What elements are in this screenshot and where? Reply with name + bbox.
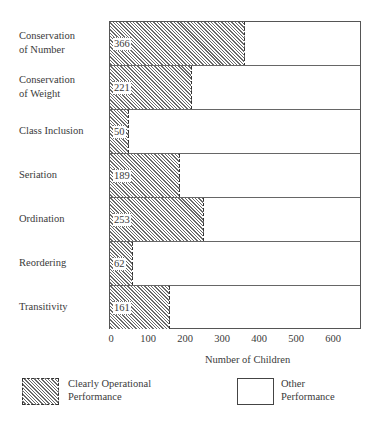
category-label-line: Class Inclusion: [19, 124, 107, 138]
category-label-line: Reordering: [19, 256, 107, 270]
legend-label-operational: Clearly Operational Performance: [68, 377, 151, 403]
legend-label-line: Performance: [281, 390, 335, 403]
category-label: Conservationof Number: [19, 29, 107, 57]
category-label-line: of Number: [19, 43, 107, 57]
category-label-line: Conservation: [19, 29, 107, 43]
bar-operational: 50: [110, 110, 129, 153]
x-tick-label: 400: [251, 333, 267, 344]
legend-swatch-other: [237, 378, 274, 405]
category-label-line: Ordination: [19, 212, 107, 226]
bar-row: 221: [110, 65, 360, 109]
category-label: Conservationof Weight: [19, 73, 107, 101]
category-label-line: Seriation: [19, 168, 107, 182]
category-label-line: Transitivity: [19, 300, 107, 314]
x-tick-label: 500: [288, 333, 304, 344]
legend-label-line: Performance: [68, 390, 151, 403]
category-label: Class Inclusion: [19, 124, 107, 138]
legend-label-line: Other: [281, 377, 335, 390]
bar-row: 366: [110, 22, 360, 66]
bar-value-label: 221: [113, 81, 131, 95]
bar-value-label: 189: [113, 169, 131, 183]
chart-root: Conservationof NumberConservationof Weig…: [0, 0, 378, 426]
bar-row: 50: [110, 109, 360, 153]
bar-value-label: 161: [113, 301, 131, 315]
bar-operational: 221: [110, 66, 192, 109]
legend-swatch-operational: [22, 378, 59, 405]
bar-operational: 62: [110, 242, 133, 285]
x-tick-label: 200: [177, 333, 193, 344]
x-axis-title: Number of Children: [205, 354, 290, 365]
bar-row: 253: [110, 197, 360, 241]
category-label: Ordination: [19, 212, 107, 226]
legend-label-line: Clearly Operational: [68, 377, 151, 390]
bar-value-label: 253: [113, 213, 131, 227]
x-tick-label: 100: [140, 333, 156, 344]
category-label: Reordering: [19, 256, 107, 270]
bar-operational: 161: [110, 286, 170, 329]
category-label-line: of Weight: [19, 87, 107, 101]
legend-label-other: Other Performance: [281, 377, 335, 403]
x-tick-label: 600: [325, 333, 341, 344]
bar-row: 62: [110, 241, 360, 285]
bar-operational: 189: [110, 154, 180, 197]
bar-value-label: 62: [113, 257, 126, 271]
category-label: Transitivity: [19, 300, 107, 314]
bar-row: 161: [110, 285, 360, 329]
bar-operational: 366: [110, 22, 245, 66]
bar-value-label: 50: [113, 125, 126, 139]
x-tick-label: 300: [214, 333, 230, 344]
plot-frame: 3662215018925362161: [109, 21, 361, 329]
bar-row: 189: [110, 153, 360, 197]
bar-value-label: 366: [113, 37, 131, 51]
category-label: Seriation: [19, 168, 107, 182]
bar-operational: 253: [110, 198, 204, 241]
x-tick-label: 0: [108, 333, 113, 344]
category-label-line: Conservation: [19, 73, 107, 87]
